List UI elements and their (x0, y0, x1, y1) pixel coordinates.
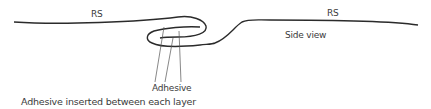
rs-label-right: RS (327, 8, 339, 18)
adhesive-leader-3 (179, 31, 181, 82)
adhesive-leader-2 (165, 38, 173, 82)
adhesive-leader-1 (155, 27, 164, 82)
rs-label-left: RS (91, 9, 103, 19)
side-view-label: Side view (285, 30, 326, 40)
caption: Adhesive inserted between each layer (21, 96, 196, 107)
adhesive-label: Adhesive (152, 83, 191, 93)
fold-diagram (0, 0, 431, 109)
